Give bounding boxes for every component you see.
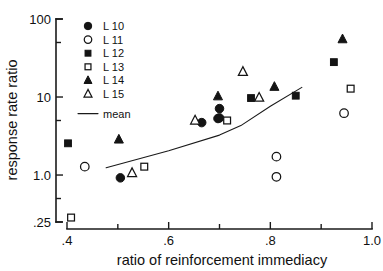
legend-label-l-13: L 13 <box>103 61 124 73</box>
legend-marker-l-10 <box>84 22 91 29</box>
x-tick-label-1: .6 <box>163 233 174 248</box>
data-point-l-14-0 <box>114 134 123 143</box>
y-tick-label-3: .25 <box>33 215 51 230</box>
data-point-l-14-2 <box>270 82 279 91</box>
y-axis-title: response rate ratio <box>4 60 20 181</box>
data-point-l-15-0 <box>128 168 137 177</box>
x-tick-label-3: 1.0 <box>363 233 381 248</box>
data-point-l-13-1 <box>141 163 148 170</box>
data-point-l-10-4 <box>215 114 224 123</box>
legend-label-l-10: L 10 <box>103 20 124 32</box>
series-l-14 <box>114 34 347 143</box>
data-point-l-14-3 <box>338 34 347 43</box>
data-point-l-12-0 <box>65 140 72 147</box>
legend-label-mean: mean <box>103 108 131 120</box>
legend-marker-l-11 <box>84 36 91 43</box>
chart-figure: .4.6.81.0 100101.0.25 L 10L 11L 12L 13L … <box>0 0 383 271</box>
x-axis-title: ratio of reinforcement immediacy <box>117 252 328 268</box>
data-point-l-11-1 <box>272 173 281 182</box>
scatter-plot: .4.6.81.0 100101.0.25 L 10L 11L 12L 13L … <box>0 0 383 271</box>
data-point-l-12-2 <box>292 92 299 99</box>
data-point-l-14-1 <box>213 91 222 100</box>
legend-label-l-12: L 12 <box>103 47 124 59</box>
data-point-l-13-0 <box>68 214 75 221</box>
y-tick-label-2: 1.0 <box>33 168 51 183</box>
y-tick-label-1: 10 <box>37 90 51 105</box>
data-point-l-15-2 <box>238 67 247 76</box>
legend: L 10L 11L 12L 13L 14L 15mean <box>78 20 131 120</box>
legend-marker-l-14 <box>84 76 92 84</box>
data-point-l-12-1 <box>248 95 255 102</box>
x-tick-label-0: .4 <box>62 233 73 248</box>
data-point-l-10-0 <box>116 174 125 183</box>
data-point-l-11-3 <box>340 109 349 118</box>
data-point-l-11-2 <box>272 152 281 161</box>
series-l-13 <box>68 85 354 221</box>
y-axis-tick-labels: 100101.0.25 <box>29 12 51 230</box>
legend-marker-l-13 <box>85 64 91 70</box>
data-point-l-15-3 <box>255 93 264 102</box>
legend-label-l-14: L 14 <box>103 74 124 86</box>
series-l-15 <box>128 67 264 177</box>
legend-marker-l-12 <box>85 50 91 56</box>
data-point-l-11-0 <box>81 162 90 171</box>
x-axis-tick-labels: .4.6.81.0 <box>62 233 381 248</box>
data-point-l-10-3 <box>215 104 224 113</box>
legend-marker-l-15 <box>84 89 92 97</box>
x-tick-label-2: .8 <box>265 233 276 248</box>
data-point-l-13-3 <box>347 85 354 92</box>
legend-label-l-15: L 15 <box>103 88 124 100</box>
data-point-l-13-2 <box>224 117 231 124</box>
data-point-l-12-3 <box>330 59 337 66</box>
legend-label-l-11: L 11 <box>103 34 123 46</box>
y-tick-label-0: 100 <box>29 12 51 27</box>
